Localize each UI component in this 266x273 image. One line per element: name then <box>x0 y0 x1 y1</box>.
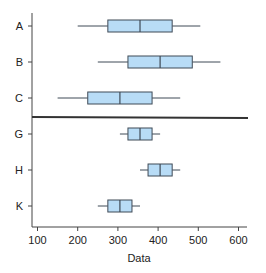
y-tick-label: K <box>16 200 24 212</box>
x-tick-label: 600 <box>229 234 247 246</box>
box-plot-chart: 100200300400500600 ABCGHK Data <box>0 0 266 273</box>
boxes: ABCGHK <box>14 20 220 212</box>
x-axis-label: Data <box>127 252 151 264</box>
x-tick-label: 100 <box>28 234 46 246</box>
box-c: C <box>15 92 180 104</box>
x-tick-label: 500 <box>189 234 207 246</box>
x-tick-label: 400 <box>149 234 167 246</box>
box-h: H <box>15 164 180 176</box>
x-tick-label: 200 <box>69 234 87 246</box>
group-separator-line <box>32 117 248 118</box>
y-tick-label: H <box>15 164 23 176</box>
y-tick-label: C <box>15 92 23 104</box>
y-tick-label: B <box>16 56 23 68</box>
y-tick-label: G <box>14 128 23 140</box>
y-tick-label: A <box>16 20 24 32</box>
box-g: G <box>14 128 160 140</box>
box-a: A <box>16 20 201 32</box>
x-tick-label: 300 <box>109 234 127 246</box>
box-b: B <box>16 56 221 68</box>
box-k: K <box>16 200 140 212</box>
